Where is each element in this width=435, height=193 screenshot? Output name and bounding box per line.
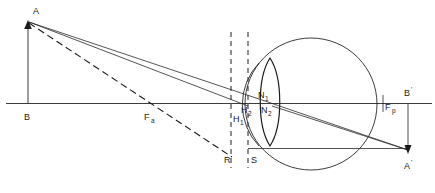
label-nodal-point-N1-subscript: 1 — [265, 95, 269, 102]
label-object-base-B: B — [24, 112, 30, 122]
label-nodal-point-N2: N — [261, 105, 268, 115]
focal-ray-through-Fa-dashed — [29, 23, 232, 157]
crystalline-lens — [260, 58, 280, 146]
label-principal-plane-H1: H — [233, 114, 240, 124]
diagram-canvas: A B F a H 1 H 2 N 1 N 2 R S F p B ' A ' — [0, 0, 435, 193]
label-image-base-A: A — [404, 161, 410, 171]
label-anterior-focal-subscript: a — [151, 117, 155, 124]
label-nodal-point-N1: N — [258, 90, 265, 100]
upper-ray-refracted — [272, 106, 408, 150]
optical-ray-diagram: A B F a H 1 H 2 N 1 N 2 R S F p B ' A ' — [0, 0, 435, 193]
label-image-top-prime: ' — [411, 86, 412, 93]
label-principal-plane-H1-subscript: 1 — [240, 119, 244, 126]
label-reference-point-S: S — [251, 155, 257, 165]
label-image-top-B: B — [404, 88, 410, 98]
label-posterior-focal-subscript: p — [392, 107, 396, 115]
label-principal-plane-H2-subscript: 2 — [248, 110, 252, 117]
label-anterior-focal-F: F — [144, 112, 150, 122]
upper-ray-incident — [29, 22, 248, 106]
chief-ray-incident-solid — [29, 22, 262, 100]
eyeball-circle — [245, 38, 377, 170]
label-reference-point-R: R — [224, 155, 231, 165]
label-object-top-A: A — [33, 6, 39, 16]
label-nodal-point-N2-subscript: 2 — [268, 110, 272, 117]
label-principal-plane-H2: H — [241, 105, 248, 115]
label-posterior-focal-F: F — [385, 102, 391, 112]
label-image-base-prime: ' — [411, 159, 412, 166]
